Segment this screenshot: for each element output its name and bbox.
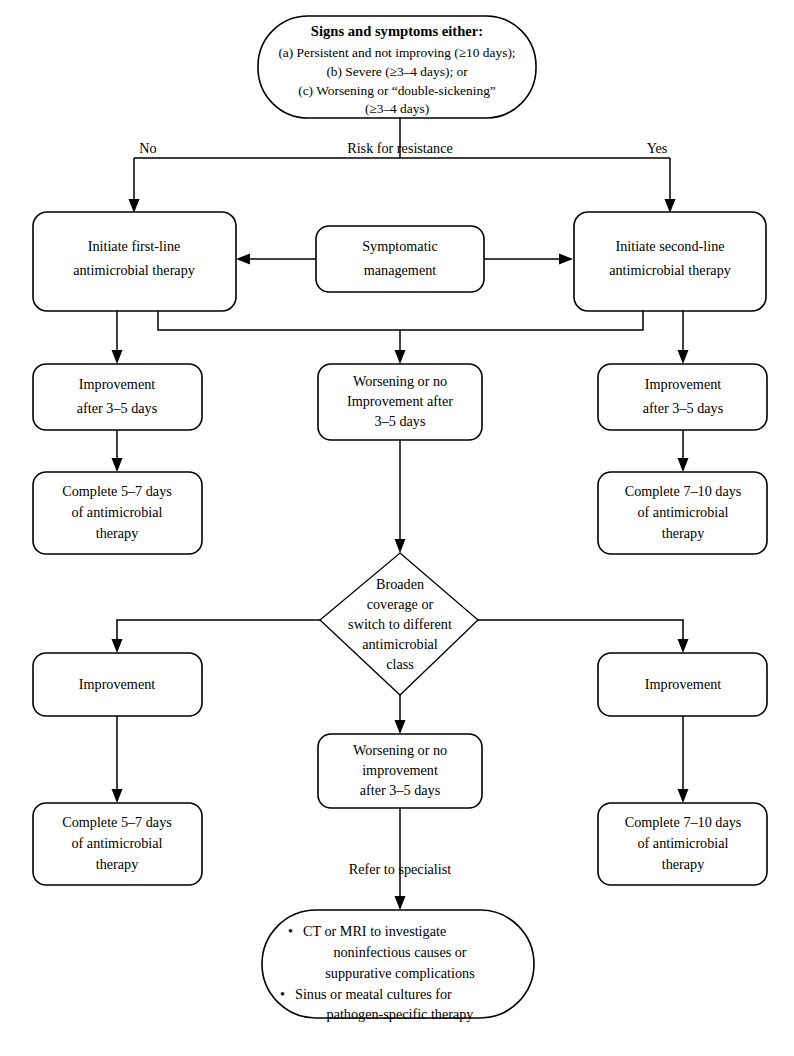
node-worsening-1-label-3: 3–5 days bbox=[375, 413, 426, 429]
node-improvement-right-1-label-2: after 3–5 days bbox=[643, 400, 724, 416]
node-start-line-2: (b) Severe (≥3–4 days); or bbox=[326, 64, 468, 79]
node-improvement-right-second: Improvement bbox=[598, 653, 767, 716]
node-worsening-2-label-3: after 3–5 days bbox=[360, 782, 441, 798]
node-broaden-coverage-decision: Broaden coverage or switch to different … bbox=[320, 553, 478, 695]
connector-first-line-to-center-bus bbox=[158, 311, 400, 330]
node-complete-left-1-label-2: of antimicrobial bbox=[71, 504, 162, 520]
node-start-heading: Signs and symptoms either: bbox=[311, 23, 483, 39]
node-improvement-left-first: Improvement after 3–5 days bbox=[33, 364, 202, 430]
node-complete-right-2-label-2: of antimicrobial bbox=[637, 835, 728, 851]
arrowhead-complete-right-1 bbox=[678, 458, 689, 472]
node-complete-right-1-label-3: therapy bbox=[662, 525, 705, 541]
node-start-line-1: (a) Persistent and not improving (≥10 da… bbox=[278, 45, 515, 60]
arrowhead-improvement-right-1 bbox=[678, 350, 689, 364]
node-first-line-label-2: antimicrobial therapy bbox=[73, 262, 196, 278]
node-initiate-first-line-therapy: Initiate first-line antimicrobial therap… bbox=[33, 212, 236, 311]
specialist-bullet-2-line-2: pathogen-specific therapy bbox=[327, 1006, 475, 1022]
node-symptomatic-management: Symptomatic management bbox=[316, 226, 484, 292]
specialist-bullet-1-line-3: suppurative complications bbox=[325, 965, 475, 981]
arrowhead-worsening-2 bbox=[395, 720, 406, 734]
arrowhead-complete-left-2 bbox=[112, 789, 123, 803]
node-improvement-right-2-label-1: Improvement bbox=[645, 676, 721, 692]
node-complete-right-2-label-1: Complete 7–10 days bbox=[625, 814, 742, 830]
specialist-bullet-1-line-1: CT or MRI to investigate bbox=[303, 923, 446, 939]
node-broaden-label-4: antimicrobial bbox=[362, 636, 438, 652]
connector-second-line-to-center-bus bbox=[400, 311, 643, 330]
node-complete-left-1-label-3: therapy bbox=[96, 525, 139, 541]
node-complete-left-1-label-1: Complete 5–7 days bbox=[62, 483, 172, 499]
node-complete-left-2-label-3: therapy bbox=[96, 856, 139, 872]
node-improvement-right-1-label-1: Improvement bbox=[645, 376, 721, 392]
flowchart-diagram: Signs and symptoms either: (a) Persisten… bbox=[0, 0, 794, 1056]
node-improvement-left-1-label-2: after 3–5 days bbox=[77, 400, 158, 416]
arrowhead-second-line bbox=[665, 199, 676, 213]
node-improvement-right-first: Improvement after 3–5 days bbox=[598, 364, 767, 430]
node-complete-left-2-label-2: of antimicrobial bbox=[71, 835, 162, 851]
node-complete-therapy-left-second: Complete 5–7 days of antimicrobial thera… bbox=[33, 803, 202, 885]
node-second-line-label-2: antimicrobial therapy bbox=[609, 262, 732, 278]
node-broaden-label-3: switch to different bbox=[348, 616, 452, 632]
node-worsening-or-no-improvement-first: Worsening or no Improvement after 3–5 da… bbox=[318, 364, 482, 440]
node-worsening-or-no-improvement-second: Worsening or no improvement after 3–5 da… bbox=[318, 734, 482, 808]
node-complete-right-2-label-3: therapy bbox=[662, 856, 705, 872]
arrowhead-improvement-left-2 bbox=[112, 639, 123, 653]
specialist-bullet-2-icon: • bbox=[280, 986, 285, 1002]
node-complete-right-1-label-2: of antimicrobial bbox=[637, 504, 728, 520]
connector-broaden-right-branch bbox=[478, 620, 683, 645]
node-improvement-left-1-shape bbox=[33, 364, 202, 430]
specialist-bullet-2-line-1: Sinus or meatal cultures for bbox=[295, 986, 452, 1002]
node-first-line-label-1: Initiate first-line bbox=[88, 238, 181, 254]
node-complete-right-1-label-1: Complete 7–10 days bbox=[625, 483, 742, 499]
arrowhead-improvement-left-1 bbox=[112, 350, 123, 364]
arrowhead-specialist bbox=[395, 896, 406, 910]
node-initiate-second-line-therapy: Initiate second-line antimicrobial thera… bbox=[574, 212, 766, 311]
node-worsening-2-label-1: Worsening or no bbox=[353, 742, 447, 758]
node-symptomatic-label-2: management bbox=[364, 262, 437, 278]
arrowhead-broaden bbox=[395, 539, 406, 553]
node-refer-to-specialist-actions: • CT or MRI to investigate noninfectious… bbox=[262, 910, 534, 1022]
node-start-line-3: (c) Worsening or “double-sickening” bbox=[298, 83, 496, 98]
arrowhead-improvement-right-2 bbox=[678, 639, 689, 653]
node-complete-therapy-left-first: Complete 5–7 days of antimicrobial thera… bbox=[33, 472, 202, 554]
node-improvement-left-1-label-1: Improvement bbox=[79, 376, 155, 392]
edge-label-no: No bbox=[139, 140, 156, 156]
arrowhead-first-line bbox=[129, 199, 140, 213]
node-symptomatic-shape bbox=[316, 226, 484, 292]
node-broaden-label-5: class bbox=[386, 656, 414, 672]
node-broaden-label-2: coverage or bbox=[367, 596, 434, 612]
edge-label-refer-to-specialist: Refer to specialist bbox=[349, 861, 451, 877]
node-worsening-1-label-2: Improvement after bbox=[347, 393, 453, 409]
connector-broaden-left-branch bbox=[117, 620, 320, 645]
arrowhead-to-first-line-box bbox=[236, 254, 250, 265]
node-symptomatic-label-1: Symptomatic bbox=[362, 238, 438, 254]
node-start-line-4: (≥3–4 days) bbox=[365, 101, 429, 116]
specialist-bullet-1-icon: • bbox=[288, 923, 293, 939]
edge-label-yes: Yes bbox=[647, 140, 668, 156]
node-complete-therapy-right-second: Complete 7–10 days of antimicrobial ther… bbox=[598, 803, 767, 885]
node-complete-therapy-right-first: Complete 7–10 days of antimicrobial ther… bbox=[598, 472, 767, 554]
node-broaden-label-1: Broaden bbox=[376, 576, 424, 592]
arrowhead-to-second-line-box bbox=[559, 254, 573, 265]
node-improvement-left-2-label-1: Improvement bbox=[79, 676, 155, 692]
flowchart-canvas: Signs and symptoms either: (a) Persisten… bbox=[0, 0, 794, 1056]
edge-label-risk-for-resistance: Risk for resistance bbox=[347, 140, 453, 156]
node-complete-left-2-label-1: Complete 5–7 days bbox=[62, 814, 172, 830]
arrowhead-worsening-1 bbox=[395, 350, 406, 364]
arrowhead-complete-right-2 bbox=[678, 789, 689, 803]
specialist-bullet-1-line-2: noninfectious causes or bbox=[333, 944, 466, 960]
node-worsening-2-label-2: improvement bbox=[362, 762, 438, 778]
node-start: Signs and symptoms either: (a) Persisten… bbox=[258, 16, 536, 118]
node-second-line-label-1: Initiate second-line bbox=[615, 238, 724, 254]
arrowhead-complete-left-1 bbox=[112, 458, 123, 472]
node-worsening-1-label-1: Worsening or no bbox=[353, 373, 447, 389]
node-improvement-left-second: Improvement bbox=[33, 653, 202, 716]
node-improvement-right-1-shape bbox=[598, 364, 767, 430]
